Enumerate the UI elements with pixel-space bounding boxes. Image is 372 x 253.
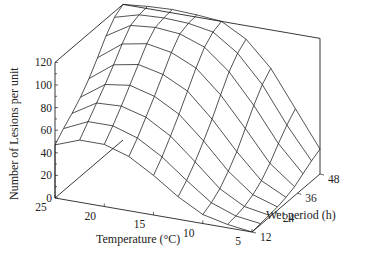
svg-text:5: 5 <box>235 235 241 247</box>
svg-text:15: 15 <box>134 218 146 230</box>
svg-text:12: 12 <box>260 231 272 243</box>
svg-text:100: 100 <box>35 79 53 91</box>
axes-frame <box>55 4 320 232</box>
z-axis-label: Number of Lesions per unit <box>7 67 21 200</box>
svg-text:20: 20 <box>85 210 97 222</box>
svg-text:60: 60 <box>41 124 53 136</box>
svg-text:20: 20 <box>41 169 53 181</box>
svg-text:80: 80 <box>41 102 53 114</box>
svg-text:36: 36 <box>305 192 317 204</box>
svg-text:48: 48 <box>328 173 340 185</box>
svg-text:40: 40 <box>41 147 53 159</box>
surface-mesh <box>55 4 320 232</box>
svg-text:120: 120 <box>35 56 53 68</box>
x-axis-label: Temperature (°C) <box>96 232 180 246</box>
y-axis-label: Wet period (h) <box>266 208 336 222</box>
svg-text:0: 0 <box>46 192 52 204</box>
svg-text:25: 25 <box>35 201 47 213</box>
surface-chart: 02040608010012025201510512243648 Number … <box>0 0 372 253</box>
svg-text:10: 10 <box>183 227 195 239</box>
